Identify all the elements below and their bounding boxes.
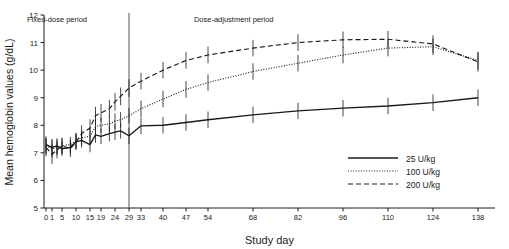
x-axis-tick-label: 124 [427, 213, 440, 222]
legend-label-200-u-kg: 200 U/kg [406, 180, 440, 190]
x-axis-tick-label: 10 [72, 213, 80, 222]
annotation-fixed-dose-period: Fixed-dose period [27, 15, 87, 24]
x-axis-tick-label: 0 [44, 213, 48, 222]
x-axis-tick-label: 68 [249, 213, 257, 222]
x-axis-tick-label: 5 [60, 213, 64, 222]
legend-label-25-u-kg: 25 U/kg [406, 154, 436, 164]
chart-figure: 56789101112Mean hemoglobin values (g/dL)… [0, 0, 509, 249]
x-axis-tick-label: 82 [294, 213, 302, 222]
y-axis-tick-label: 7 [34, 149, 39, 158]
x-axis-tick-label: 96 [339, 213, 347, 222]
series-line [46, 98, 478, 149]
y-axis-tick-label: 11 [30, 39, 39, 48]
x-axis-tick-label: 15 [86, 213, 94, 222]
series-100-u-kg [46, 38, 478, 157]
x-axis-tick-label: 138 [472, 213, 485, 222]
y-axis-tick-label: 9 [34, 94, 39, 103]
y-axis-title: Mean hemoglobin values (g/dL) [3, 38, 15, 185]
x-axis-tick-label: 40 [159, 213, 167, 222]
x-axis-tick-label: 19 [97, 213, 105, 222]
chart-body: 56789101112Mean hemoglobin values (g/dL)… [3, 11, 495, 246]
x-axis-title: Study day [245, 234, 294, 246]
y-axis-tick-label: 10 [29, 66, 38, 75]
series-200-u-kg [46, 31, 478, 164]
y-axis-tick-label: 5 [34, 204, 39, 213]
hemoglobin-line-chart: 56789101112Mean hemoglobin values (g/dL)… [0, 0, 509, 249]
x-axis-tick-label: 24 [111, 213, 119, 222]
x-axis-tick-label: 29 [125, 213, 133, 222]
y-axis-tick-label: 6 [34, 176, 39, 185]
x-axis-tick-label: 54 [204, 213, 212, 222]
y-axis-tick-label: 8 [34, 121, 39, 130]
x-axis-tick-label: 110 [382, 213, 394, 222]
x-axis-tick-label: 1 [50, 213, 54, 222]
x-axis-tick-label: 33 [137, 213, 145, 222]
series-line [46, 39, 478, 154]
legend: 25 U/kg100 U/kg200 U/kg [348, 154, 440, 190]
series-25-u-kg [46, 89, 478, 155]
x-axis-tick-label: 47 [182, 213, 190, 222]
annotation-dose-adjustment-period: Dose-adjustment period [194, 15, 274, 24]
legend-label-100-u-kg: 100 U/kg [406, 167, 440, 177]
